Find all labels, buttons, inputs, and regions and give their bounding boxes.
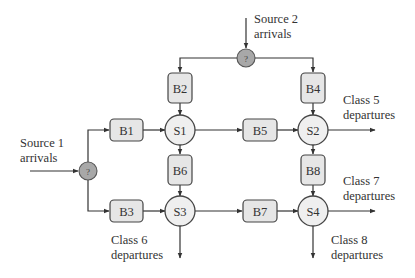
source1-line1: Source 1 — [20, 136, 64, 150]
buffer-label: B6 — [173, 164, 188, 178]
router-label: ? — [86, 167, 90, 177]
buffer-label: B3 — [119, 205, 134, 219]
class6-label: Class 6 departures — [111, 233, 163, 262]
router-label: ? — [244, 54, 248, 64]
server-label: S3 — [173, 205, 186, 219]
source2-line1: Source 2 — [254, 12, 298, 26]
class5-label: Class 5 departures — [343, 93, 395, 122]
buffer-b4: B4 — [301, 73, 325, 103]
buffer-b3: B3 — [110, 200, 143, 222]
source2-label: Source 2 arrivals — [254, 12, 298, 41]
class5-line2: departures — [343, 108, 395, 122]
buffer-b1: B1 — [110, 119, 143, 141]
class8-line2: departures — [331, 248, 383, 262]
source2-line2: arrivals — [254, 27, 292, 41]
edge-router1-b1 — [88, 130, 109, 162]
edge-router1-b3 — [88, 180, 109, 211]
server-s2: S2 — [298, 115, 328, 145]
buffer-label: B2 — [173, 82, 188, 96]
class7-line2: departures — [343, 189, 395, 203]
server-s1: S1 — [165, 115, 195, 145]
server-label: S1 — [173, 124, 186, 138]
class6-line2: departures — [111, 248, 163, 262]
class5-line1: Class 5 — [343, 93, 379, 107]
buffer-b8: B8 — [301, 155, 325, 185]
buffer-b2: B2 — [168, 73, 192, 103]
router1: ? — [79, 162, 97, 180]
buffer-label: B1 — [119, 124, 134, 138]
server-s4: S4 — [298, 196, 328, 226]
class7-line1: Class 7 — [343, 174, 379, 188]
router2: ? — [237, 49, 255, 67]
edge-router2-b4 — [255, 58, 313, 72]
buffer-label: B8 — [306, 164, 321, 178]
buffer-b6: B6 — [168, 155, 192, 185]
server-s3: S3 — [165, 196, 195, 226]
buffer-b5: B5 — [243, 119, 277, 141]
buffer-label: B7 — [253, 205, 268, 219]
class8-line1: Class 8 — [331, 233, 367, 247]
source1-label: Source 1 arrivals — [20, 136, 64, 165]
buffer-label: B5 — [253, 124, 268, 138]
class6-line1: Class 6 — [111, 233, 147, 247]
server-label: S4 — [306, 205, 320, 219]
edge-router2-b2 — [180, 58, 237, 72]
class7-label: Class 7 departures — [343, 174, 395, 203]
queueing-network-diagram: ? ? B1 B2 B3 B4 B5 B6 B7 B8 S1 — [0, 0, 415, 278]
server-label: S2 — [306, 124, 319, 138]
source1-line2: arrivals — [20, 151, 58, 165]
class8-label: Class 8 departures — [331, 233, 383, 262]
buffer-label: B4 — [306, 82, 321, 96]
buffer-b7: B7 — [243, 200, 277, 222]
